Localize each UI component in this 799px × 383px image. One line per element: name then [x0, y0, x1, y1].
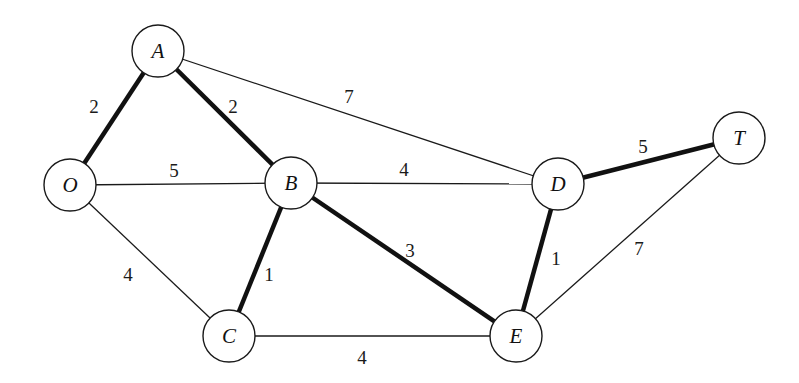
node-e: E: [490, 310, 542, 362]
node-label: T: [733, 126, 746, 150]
edge-o-c: [70, 185, 229, 336]
edge-weights-layer: 254271434157: [89, 86, 648, 368]
edge-weight-b-c: 1: [264, 264, 274, 285]
graph-diagram: 254271434157 OABCDET: [0, 0, 799, 383]
node-d: D: [532, 158, 584, 210]
node-o: O: [44, 159, 96, 211]
nodes-layer: OABCDET: [44, 25, 765, 362]
edge-a-d: [158, 51, 558, 184]
node-c: C: [203, 310, 255, 362]
node-label: A: [150, 39, 165, 63]
edge-weight-d-e: 1: [551, 248, 561, 269]
edge-o-b: [70, 183, 291, 185]
edge-weight-a-b: 2: [228, 96, 238, 117]
edge-weight-b-e: 3: [405, 240, 415, 261]
edge-weight-a-d: 7: [344, 86, 354, 107]
edge-weight-e-t: 7: [634, 238, 644, 259]
edge-weight-b-d: 4: [399, 159, 409, 180]
edges-layer: [70, 51, 739, 336]
node-label: C: [222, 324, 237, 348]
node-label: B: [285, 171, 298, 195]
edge-weight-o-a: 2: [89, 96, 99, 117]
edge-weight-o-c: 4: [123, 264, 133, 285]
edge-weight-c-e: 4: [357, 347, 367, 368]
edge-b-d: [291, 183, 558, 184]
edge-b-e: [291, 183, 516, 336]
node-a: A: [132, 25, 184, 77]
edge-weight-o-b: 5: [169, 160, 179, 181]
node-label: D: [549, 172, 565, 196]
node-b: B: [265, 157, 317, 209]
node-t: T: [713, 112, 765, 164]
node-label: E: [509, 324, 523, 348]
edge-d-t: [558, 138, 739, 184]
node-label: O: [62, 173, 77, 197]
edge-weight-d-t: 5: [638, 136, 648, 157]
